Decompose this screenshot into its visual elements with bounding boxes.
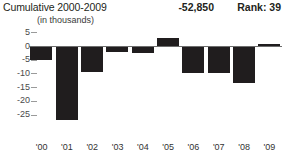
plot-area: 50-5-10-15-20-25	[0, 28, 284, 140]
bar	[157, 38, 179, 46]
x-axis-tick-label: '08	[231, 141, 256, 153]
bar	[233, 46, 255, 83]
bar	[30, 46, 52, 60]
bar	[81, 46, 103, 72]
chart-header: Cumulative 2000-2009 (in thousands) -52,…	[0, 0, 284, 28]
bar-series	[29, 28, 282, 140]
y-axis-tick-label: 0	[0, 41, 30, 52]
y-axis-tick-label: -25	[0, 109, 30, 120]
chart-widget: Cumulative 2000-2009 (in thousands) -52,…	[0, 0, 284, 158]
bar	[182, 46, 204, 73]
bar	[132, 46, 154, 53]
chart-title: Cumulative 2000-2009	[3, 1, 107, 13]
x-axis-tick-label: '01	[54, 141, 79, 153]
x-axis-tick-label: '04	[130, 141, 155, 153]
y-axis-tick-label: -15	[0, 82, 30, 93]
bar	[56, 46, 78, 120]
x-axis-tick-label: '07	[206, 141, 231, 153]
x-axis-tick-label: '05	[156, 141, 181, 153]
x-axis-tick-label: '09	[257, 141, 282, 153]
y-axis-tick-label: 5	[0, 27, 30, 38]
y-axis-tick-label: -5	[0, 54, 30, 65]
rank-value: Rank: 39	[237, 1, 281, 13]
x-axis-tick-label: '02	[80, 141, 105, 153]
x-axis-tick-label: '00	[29, 141, 54, 153]
zero-baseline	[29, 46, 282, 47]
x-axis: '00'01'02'03'04'05'06'07'08'09	[29, 140, 282, 156]
x-axis-tick-label: '06	[181, 141, 206, 153]
y-axis-tick-label: -10	[0, 68, 30, 79]
x-axis-tick-label: '03	[105, 141, 130, 153]
chart-units-label: (in thousands)	[37, 15, 94, 26]
y-axis-tick-label: -20	[0, 95, 30, 106]
cumulative-total-value: -52,850	[178, 1, 214, 13]
bar	[208, 46, 230, 73]
